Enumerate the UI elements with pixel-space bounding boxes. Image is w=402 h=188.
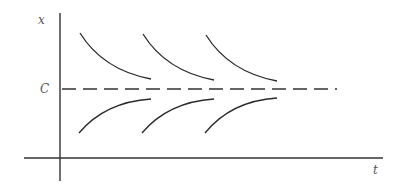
diagram-canvas: x t C bbox=[0, 0, 402, 188]
solution-curve-below-3 bbox=[205, 98, 277, 133]
solution-curve-below-1 bbox=[79, 99, 151, 133]
solution-curve-above-2 bbox=[143, 34, 214, 80]
x-axis-label: t bbox=[373, 163, 378, 177]
solution-curve-above-3 bbox=[206, 35, 277, 81]
equilibrium-label: C bbox=[40, 82, 49, 96]
y-axis-label: x bbox=[38, 13, 45, 27]
solution-curve-above-1 bbox=[80, 33, 151, 79]
solution-curve-below-2 bbox=[142, 99, 214, 133]
